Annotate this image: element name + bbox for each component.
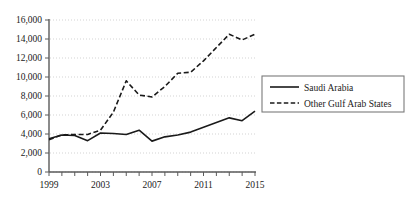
line-chart: 02,0004,0006,0008,00010,00012,00014,0001… — [0, 0, 408, 203]
y-tick-label: 0 — [37, 167, 42, 177]
y-axis: 02,0004,0006,0008,00010,00012,00014,0001… — [16, 15, 49, 177]
legend-label-1: Saudi Arabia — [304, 83, 354, 93]
x-tick-label: 1999 — [40, 180, 59, 190]
y-tick-label: 8,000 — [21, 91, 43, 101]
x-tick-label: 2015 — [246, 180, 265, 190]
legend-label-2: Other Gulf Arab States — [304, 99, 392, 109]
series-line-2 — [49, 34, 255, 139]
y-tick-label: 12,000 — [16, 53, 42, 63]
y-tick-label: 6,000 — [21, 110, 43, 120]
y-tick-label: 10,000 — [16, 72, 42, 82]
y-tick-label: 4,000 — [21, 129, 43, 139]
y-tick-label: 2,000 — [21, 148, 43, 158]
x-axis: 19992003200720112015 — [40, 172, 265, 190]
y-tick-label: 14,000 — [16, 34, 42, 44]
chart-legend: Saudi ArabiaOther Gulf Arab States — [262, 76, 404, 112]
y-tick-label: 16,000 — [16, 15, 42, 25]
gridlines — [50, 20, 255, 172]
x-tick-label: 2007 — [143, 180, 162, 190]
x-tick-label: 2003 — [91, 180, 110, 190]
data-series — [49, 34, 255, 141]
chart-canvas: 02,0004,0006,0008,00010,00012,00014,0001… — [0, 0, 408, 203]
series-line-1 — [49, 111, 255, 141]
x-tick-label: 2011 — [194, 180, 213, 190]
